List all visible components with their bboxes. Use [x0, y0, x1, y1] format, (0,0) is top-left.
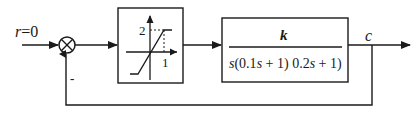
saturation-block — [118, 8, 183, 83]
input-value: 0 — [30, 23, 38, 40]
summing-junction — [59, 37, 75, 53]
feedback-sign: - — [70, 72, 74, 85]
output-label: c — [365, 28, 372, 44]
tf-numerator: k — [280, 28, 288, 43]
input-label: r=0 — [15, 24, 38, 40]
block-diagram — [0, 0, 417, 115]
saturation-y-tick: 2 — [139, 24, 146, 37]
tf-denominator: s(0.1s + 1) 0.2s + 1) — [229, 57, 342, 71]
input-equals: = — [21, 23, 30, 40]
saturation-x-tick: 1 — [162, 56, 169, 69]
